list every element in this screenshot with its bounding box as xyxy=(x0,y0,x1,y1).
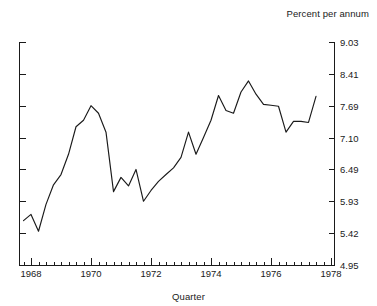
x-tick-label: 1978 xyxy=(320,268,341,279)
line-chart-plot xyxy=(0,0,377,306)
y-tick-label: 6.49 xyxy=(340,164,359,175)
y-tick-label: 4.95 xyxy=(340,260,359,271)
y-tick-label: 7.69 xyxy=(340,100,359,111)
x-tick-label: 1974 xyxy=(200,268,221,279)
y-tick-label: 8.41 xyxy=(340,68,359,79)
y-tick-label: 5.42 xyxy=(340,228,359,239)
x-tick-label: 1968 xyxy=(20,268,41,279)
x-tick-label: 1976 xyxy=(260,268,281,279)
x-tick-label: 1970 xyxy=(80,268,101,279)
x-axis-title: Quarter xyxy=(0,291,377,302)
y-tick-label: 5.93 xyxy=(340,196,359,207)
chart-container: Percent per annum 9.038.417.697.106.495.… xyxy=(0,0,377,306)
y-tick-label: 7.10 xyxy=(340,132,359,143)
x-tick-label: 1972 xyxy=(140,268,161,279)
y-tick-label: 9.03 xyxy=(340,37,359,48)
